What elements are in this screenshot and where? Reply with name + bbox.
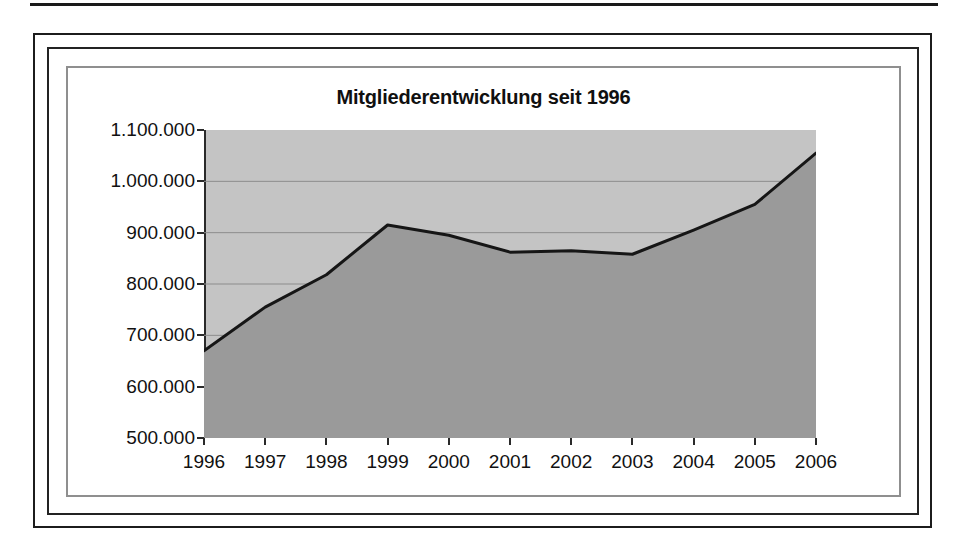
x-axis-tick-mark — [631, 438, 633, 445]
x-axis-tick-mark — [509, 438, 511, 445]
x-axis-tick-mark — [387, 438, 389, 445]
x-axis-tick-label: 2004 — [672, 451, 714, 473]
x-axis-tick-label: 2001 — [489, 451, 531, 473]
x-axis-tick-label: 2000 — [428, 451, 470, 473]
x-axis-tick-mark — [325, 438, 327, 445]
x-axis-tick-mark — [570, 438, 572, 445]
x-axis-tick-label: 2003 — [611, 451, 653, 473]
x-axis-tick-label: 1999 — [366, 451, 408, 473]
figure-frame-inner: Mitgliederentwicklung seit 1996 500.0006… — [66, 66, 901, 497]
y-axis-tick-label: 600.000 — [126, 376, 195, 398]
y-axis-tick-label: 1.000.000 — [110, 170, 195, 192]
y-axis-tick-mark — [197, 129, 204, 131]
y-axis-tick-label: 1.100.000 — [110, 119, 195, 141]
figure-frame-outer: Mitgliederentwicklung seit 1996 500.0006… — [33, 33, 932, 528]
y-axis-tick-label: 500.000 — [126, 427, 195, 449]
y-axis-tick-label: 800.000 — [126, 273, 195, 295]
plot-wrap: 500.000600.000700.000800.000900.0001.000… — [204, 130, 816, 438]
x-axis-tick-label: 1998 — [305, 451, 347, 473]
x-axis-tick-mark — [203, 438, 205, 445]
x-axis-tick-mark — [448, 438, 450, 445]
y-axis-tick-mark — [197, 334, 204, 336]
x-axis-tick-mark — [815, 438, 817, 445]
x-axis-tick-label: 2006 — [795, 451, 837, 473]
x-axis-tick-mark — [754, 438, 756, 445]
y-axis-tick-mark — [197, 180, 204, 182]
x-axis-tick-label: 2005 — [734, 451, 776, 473]
y-axis-tick-label: 700.000 — [126, 324, 195, 346]
y-axis-tick-mark — [197, 283, 204, 285]
y-axis-tick-mark — [197, 386, 204, 388]
page-top-rule — [30, 3, 938, 6]
y-axis-tick-mark — [197, 232, 204, 234]
x-axis-tick-mark — [693, 438, 695, 445]
area-chart-plot — [204, 130, 816, 438]
area-series-fill — [204, 153, 816, 438]
x-axis-tick-label: 2002 — [550, 451, 592, 473]
chart-title: Mitgliederentwicklung seit 1996 — [68, 86, 899, 109]
figure-frame-middle: Mitgliederentwicklung seit 1996 500.0006… — [47, 47, 919, 515]
x-axis-tick-label: 1997 — [244, 451, 286, 473]
y-axis-tick-label: 900.000 — [126, 222, 195, 244]
x-axis-tick-label: 1996 — [183, 451, 225, 473]
x-axis-tick-mark — [264, 438, 266, 445]
chart-area: Mitgliederentwicklung seit 1996 500.0006… — [68, 68, 899, 495]
